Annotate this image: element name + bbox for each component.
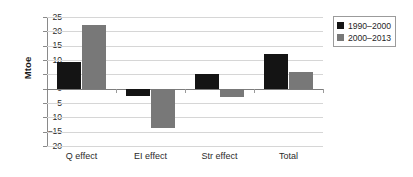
- legend-item: 2000–2013: [337, 32, 391, 43]
- x-axis-tick-label: Str effect: [185, 151, 254, 161]
- legend-label: 2000–2013: [348, 33, 391, 43]
- bar: [264, 54, 288, 88]
- bar: [151, 89, 175, 128]
- bar: [195, 74, 219, 89]
- gridline: [47, 132, 323, 133]
- bar: [82, 25, 106, 89]
- legend-item: 1990–2000: [337, 20, 391, 31]
- bar: [126, 89, 150, 97]
- x-axis-tick-label: Total: [254, 151, 323, 161]
- bar: [57, 62, 81, 88]
- x-axis-tick-label: EI effect: [116, 151, 185, 161]
- gridline: [47, 117, 323, 118]
- gridline: [47, 103, 323, 104]
- category-tick-mark: [116, 89, 117, 93]
- bar-chart-figure: Mtoe 2520151050−5−10−15−20 Q effectEI ef…: [0, 0, 413, 177]
- gridline: [47, 146, 323, 147]
- plot-area: [47, 17, 323, 146]
- y-axis-line: [47, 17, 48, 146]
- gridline: [47, 17, 323, 18]
- bar: [220, 89, 244, 97]
- bar: [289, 72, 313, 89]
- legend-swatch-icon: [337, 34, 344, 41]
- legend: 1990–20002000–2013: [333, 16, 396, 47]
- legend-swatch-icon: [337, 22, 344, 29]
- x-axis-tick-label: Q effect: [47, 151, 116, 161]
- category-tick-mark: [323, 89, 324, 93]
- category-tick-mark: [254, 89, 255, 93]
- category-tick-mark: [185, 89, 186, 93]
- legend-label: 1990–2000: [348, 21, 391, 31]
